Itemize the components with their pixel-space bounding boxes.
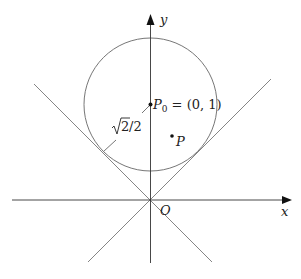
radius-segment-lower (104, 140, 117, 152)
center-point-p0 (149, 103, 153, 107)
diagram: y x O P0 = (0, 1) 2 /2 P (0, 0, 301, 279)
x-axis-arrow-icon (282, 196, 292, 204)
radius-label-rest: /2 (129, 119, 142, 134)
y-axis-label: y (159, 12, 168, 27)
y-axis-arrow-icon (147, 14, 155, 25)
center-label-p: P (152, 97, 162, 112)
point-p (170, 134, 174, 138)
x-axis-label: x (281, 204, 289, 219)
center-label-coords: = (0, 1) (167, 97, 221, 112)
origin-label: O (160, 203, 171, 218)
point-p-label: P (175, 134, 185, 149)
center-label: P0 = (0, 1) (152, 97, 222, 114)
radius-label: 2 /2 (112, 118, 142, 134)
